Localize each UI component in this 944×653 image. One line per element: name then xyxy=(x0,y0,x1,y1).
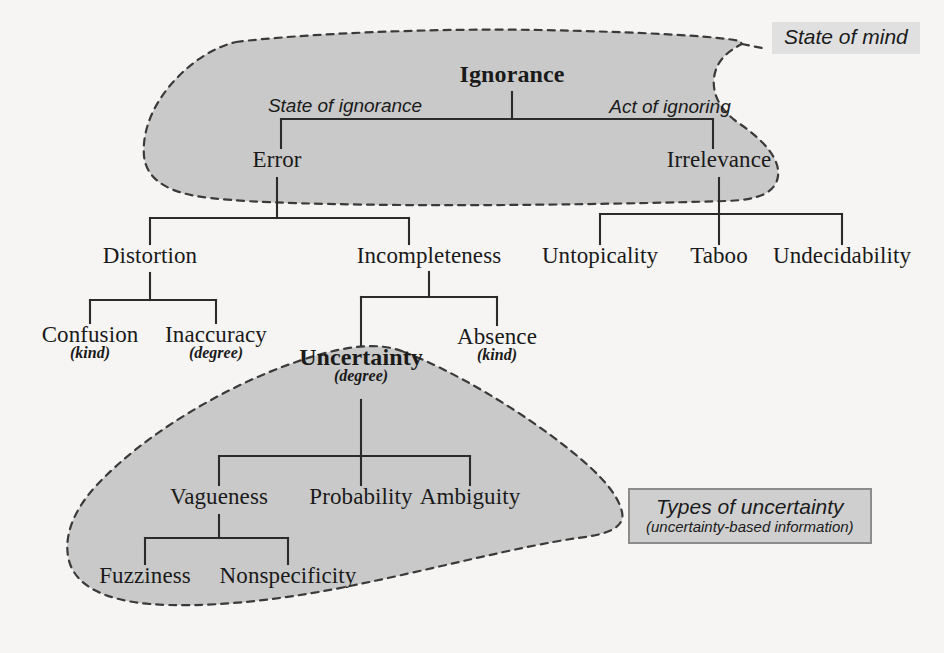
diagram-canvas: State of mind Types of uncertainty (unce… xyxy=(0,0,944,653)
node-absence-label: Absence xyxy=(457,325,537,348)
callout-types-of-uncertainty-line2: (uncertainty-based information) xyxy=(646,519,854,536)
node-inaccuracy-qualifier: (degree) xyxy=(165,345,267,361)
node-inaccuracy[interactable]: Inaccuracy (degree) xyxy=(165,323,267,362)
node-taboo-label: Taboo xyxy=(690,244,748,267)
node-undecidability[interactable]: Undecidability xyxy=(773,244,911,267)
node-irrelevance[interactable]: Irrelevance xyxy=(667,148,772,171)
node-distortion[interactable]: Distortion xyxy=(103,244,197,267)
node-undecidability-label: Undecidability xyxy=(773,244,911,267)
node-vagueness[interactable]: Vagueness xyxy=(170,485,268,508)
node-uncertainty[interactable]: Uncertainty (degree) xyxy=(299,345,423,385)
node-probability[interactable]: Probability xyxy=(309,485,412,508)
node-nonspecificity[interactable]: Nonspecificity xyxy=(220,564,357,587)
node-confusion-qualifier: (kind) xyxy=(42,345,139,361)
callout-state-of-mind-label: State of mind xyxy=(784,25,908,49)
node-inaccuracy-label: Inaccuracy xyxy=(165,323,267,346)
node-untopicality-label: Untopicality xyxy=(542,244,658,267)
node-uncertainty-label: Uncertainty xyxy=(299,345,423,369)
node-ambiguity[interactable]: Ambiguity xyxy=(420,485,521,508)
node-probability-label: Probability xyxy=(309,485,412,508)
callout-types-of-uncertainty: Types of uncertainty (uncertainty-based … xyxy=(628,488,872,544)
node-untopicality[interactable]: Untopicality xyxy=(542,244,658,267)
node-distortion-label: Distortion xyxy=(103,244,197,267)
node-uncertainty-qualifier: (degree) xyxy=(299,368,423,384)
node-taboo[interactable]: Taboo xyxy=(690,244,748,267)
node-ambiguity-label: Ambiguity xyxy=(420,485,521,508)
node-ignorance[interactable]: Ignorance xyxy=(460,62,565,86)
callout-state-of-mind: State of mind xyxy=(772,22,920,54)
node-ignorance-label: Ignorance xyxy=(460,62,565,86)
node-irrelevance-label: Irrelevance xyxy=(667,148,772,171)
node-vagueness-label: Vagueness xyxy=(170,485,268,508)
node-absence-qualifier: (kind) xyxy=(457,347,537,363)
node-error-label: Error xyxy=(252,148,301,171)
edge-label-state-of-ignorance: State of ignorance xyxy=(268,95,422,117)
node-confusion[interactable]: Confusion (kind) xyxy=(42,323,139,362)
node-incompleteness[interactable]: Incompleteness xyxy=(357,244,501,267)
node-fuzziness-label: Fuzziness xyxy=(99,564,191,587)
edge-label-act-of-ignoring: Act of ignoring xyxy=(609,96,730,118)
node-confusion-label: Confusion xyxy=(42,323,139,346)
node-incompleteness-label: Incompleteness xyxy=(357,244,501,267)
node-fuzziness[interactable]: Fuzziness xyxy=(99,564,191,587)
edge-label-act-of-ignoring-text: Act of ignoring xyxy=(609,96,730,117)
node-error[interactable]: Error xyxy=(252,148,301,171)
node-absence[interactable]: Absence (kind) xyxy=(457,325,537,364)
callout-types-of-uncertainty-line1: Types of uncertainty xyxy=(646,495,854,519)
edge-label-state-of-ignorance-text: State of ignorance xyxy=(268,95,422,116)
node-nonspecificity-label: Nonspecificity xyxy=(220,564,357,587)
